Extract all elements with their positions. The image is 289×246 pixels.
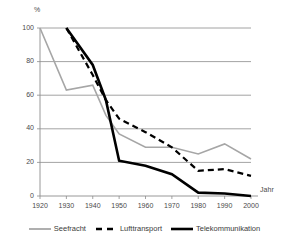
chart-legend: Seefracht Lufttransport Telekommunikatio…: [0, 224, 289, 233]
y-tick-label-0: 0: [14, 192, 34, 199]
legend-swatch-lufttransport: [95, 225, 117, 233]
legend-item-seefracht: Seefracht: [29, 224, 86, 233]
legend-item-telekommunikation: Telekommunikation: [171, 224, 260, 233]
gridlines: [40, 28, 251, 162]
y-tick-label-60: 60: [14, 91, 34, 98]
y-tick-label-40: 40: [14, 124, 34, 131]
y-tick-label-80: 80: [14, 57, 34, 64]
line-chart-figure: % Jahr 020406080100 19201930194019501960…: [0, 0, 289, 246]
legend-label-seefracht: Seefracht: [54, 224, 86, 233]
data-series: [40, 28, 251, 196]
series-line-seefracht: [40, 28, 251, 159]
axes: [40, 28, 258, 196]
series-line-lufttransport: [66, 28, 251, 176]
legend-swatch-seefracht: [29, 225, 51, 233]
x-tick-label-2000: 2000: [236, 202, 266, 209]
legend-swatch-telekommunikation: [171, 225, 193, 233]
legend-label-lufttransport: Lufttransport: [120, 224, 162, 233]
x-ticks: [37, 28, 251, 199]
y-axis-unit-label: %: [34, 6, 40, 13]
legend-label-telekommunikation: Telekommunikation: [196, 224, 260, 233]
legend-item-lufttransport: Lufttransport: [95, 224, 162, 233]
chart-canvas: [0, 0, 289, 246]
y-tick-label-20: 20: [14, 158, 34, 165]
y-tick-label-100: 100: [14, 24, 34, 31]
series-line-telekommunikation: [66, 28, 251, 196]
x-axis-label: Jahr: [260, 186, 274, 193]
